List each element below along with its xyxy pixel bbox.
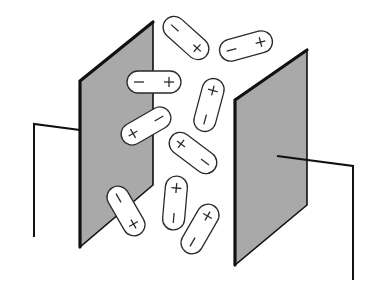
right-capacitor-plate	[235, 50, 307, 265]
capacitor-dielectric-diagram	[0, 0, 381, 291]
minus-sign-icon	[173, 213, 174, 223]
dipole-2	[217, 28, 275, 63]
dipole-capsule	[217, 28, 275, 63]
diagram-canvas	[0, 0, 381, 291]
right-plate-group	[235, 50, 353, 280]
dipole-8	[162, 175, 189, 231]
dipole-6	[165, 128, 221, 178]
dipole-capsule	[165, 128, 221, 178]
dipole-1	[159, 12, 214, 64]
dipole-3	[127, 71, 181, 93]
dipole-4	[191, 76, 226, 134]
left-lead-wire	[34, 124, 80, 237]
dipole-capsule	[162, 175, 189, 231]
dipole-capsule	[159, 12, 214, 64]
plus-sign-icon	[171, 188, 181, 189]
dipole-capsule	[191, 76, 226, 134]
